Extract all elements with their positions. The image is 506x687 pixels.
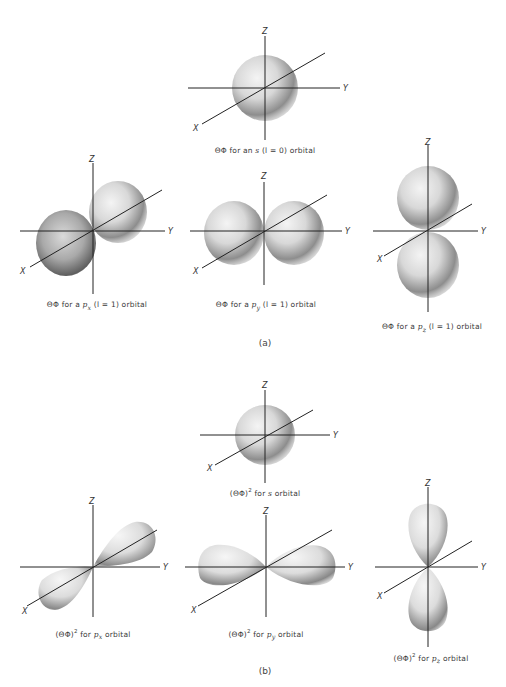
z-axis-label: Z	[424, 479, 431, 488]
panel-px-orbital: Z Y X	[19, 155, 174, 294]
caption-pz-orbital: ΘΦ for a pz (l = 1) orbital	[382, 322, 482, 333]
orbital-figure: Z Y X Z Y X Z Y X Z Y X	[0, 0, 506, 687]
caption-px-orbital: ΘΦ for a px (l = 1) orbital	[47, 300, 147, 311]
x-axis-label: X	[21, 607, 28, 616]
y-axis-label: Y	[168, 227, 174, 236]
part-label-a: (a)	[259, 338, 272, 348]
caption-py-orbital-squared: (ΘΦ)2 for py orbital	[228, 628, 303, 640]
x-axis-label: X	[192, 124, 199, 133]
z-axis-label: Z	[262, 507, 269, 516]
caption-s-orbital: ΘΦ for an s (l = 0) orbital	[215, 146, 316, 155]
part-label-b: (b)	[259, 666, 272, 676]
panel-py-orbital: Z Y X	[190, 172, 351, 285]
panel-px-orbital-squared: Z Y X	[20, 497, 169, 617]
panel-pz-orbital: Z Y X	[373, 138, 487, 312]
y-axis-label: Y	[333, 431, 339, 440]
x-axis-label: X	[19, 267, 26, 276]
caption-py-orbital: ΘΦ for a py (l = 1) orbital	[216, 300, 316, 311]
y-axis-label: Y	[343, 84, 349, 93]
x-axis-label: X	[376, 255, 383, 264]
z-axis-label: Z	[260, 172, 267, 181]
y-axis-label: Y	[163, 563, 169, 572]
y-axis-label: Y	[481, 563, 487, 572]
x-axis-label: X	[190, 606, 197, 615]
panel-s-orbital-squared: Z Y X	[200, 381, 339, 483]
y-axis-label: Y	[348, 563, 354, 572]
x-axis-label: X	[206, 464, 213, 473]
x-axis-label: X	[376, 592, 383, 601]
z-axis-label: Z	[261, 381, 268, 390]
z-axis-label: Z	[261, 27, 268, 36]
panel-pz-orbital-squared: Z Y X	[375, 479, 487, 647]
caption-px-orbital-squared: (ΘΦ)2 for px orbital	[55, 628, 130, 640]
panel-py-orbital-squared: Z Y X	[185, 507, 354, 617]
z-axis-label: Z	[88, 497, 95, 506]
y-axis-label: Y	[345, 227, 351, 236]
panel-s-orbital: Z Y X	[188, 27, 349, 140]
y-axis-label: Y	[481, 227, 487, 236]
x-axis-label: X	[192, 267, 199, 276]
caption-s-orbital-squared: (ΘΦ)2 for s orbital	[230, 487, 300, 498]
z-axis-label: Z	[424, 138, 431, 147]
caption-pz-orbital-squared: (ΘΦ)2 for pz orbital	[394, 652, 469, 664]
z-axis-label: Z	[88, 155, 95, 164]
